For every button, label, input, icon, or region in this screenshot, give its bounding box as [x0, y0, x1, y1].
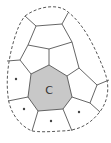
dashed-boundary	[7, 7, 108, 132]
asterisk-marker-3	[50, 120, 52, 122]
asterisk-marker-1	[15, 78, 17, 80]
asterisk-marker-4	[78, 111, 80, 113]
center-cell-label: C	[45, 84, 53, 97]
cell-diagram: C	[0, 0, 111, 143]
asterisk-marker-2	[23, 108, 25, 110]
